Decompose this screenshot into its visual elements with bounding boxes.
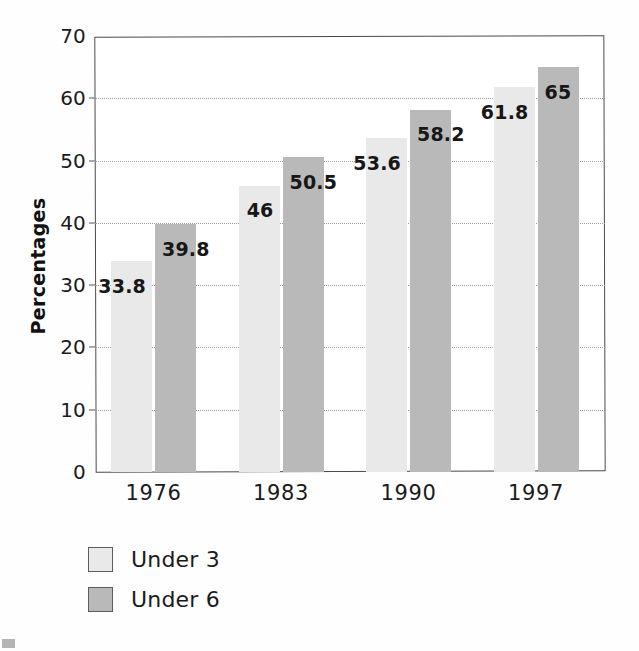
- bar-under-3-1983: [239, 186, 280, 473]
- bar-value-label: 33.8: [98, 275, 146, 297]
- x-tick-label-1976: 1976: [126, 481, 182, 505]
- bar-under-3-1990: [366, 138, 407, 472]
- bar-value-label: 53.6: [353, 152, 401, 174]
- x-tick-label-1990: 1990: [381, 481, 437, 505]
- chart-legend: Under 3Under 6: [88, 539, 220, 619]
- bar-chart-figure: 010203040506070 Percentages 33.839.84650…: [0, 0, 639, 651]
- bar-value-label: 39.8: [162, 238, 210, 260]
- bar-value-label: 58.2: [417, 123, 465, 145]
- y-tick-label: 0: [73, 460, 86, 484]
- plot-area: 33.839.84650.553.658.261.865: [95, 36, 605, 472]
- scan-artifact-mark: [2, 639, 15, 648]
- bar-under-6-1983: [283, 157, 324, 472]
- y-tick-label: 30: [60, 273, 86, 297]
- y-tick-label: 20: [60, 335, 86, 359]
- bar-value-label: 50.5: [290, 171, 338, 193]
- y-tick-label: 70: [60, 24, 86, 48]
- bar-value-label: 61.8: [481, 101, 529, 123]
- bar-under-6-1976: [155, 224, 196, 472]
- legend-label: Under 3: [131, 547, 220, 572]
- bar-under-6-1997: [538, 67, 579, 472]
- bar-value-label: 46: [247, 199, 274, 221]
- bar-under-6-1990: [410, 110, 451, 473]
- y-tick-label: 60: [60, 86, 86, 110]
- bar-under-3-1997: [494, 87, 535, 472]
- legend-swatch-icon: [88, 547, 113, 572]
- x-tick-label-1997: 1997: [508, 481, 564, 505]
- y-tick-label: 10: [60, 398, 86, 422]
- legend-item-under-3: Under 3: [88, 539, 220, 579]
- legend-item-under-6: Under 6: [88, 579, 220, 619]
- y-tick-label: 40: [60, 211, 86, 235]
- x-tick-label-1983: 1983: [253, 481, 309, 505]
- bar-value-label: 65: [545, 81, 572, 103]
- legend-label: Under 6: [131, 587, 220, 612]
- y-axis-title: Percentages: [27, 186, 49, 346]
- y-tick-label: 50: [60, 149, 86, 173]
- legend-swatch-icon: [88, 587, 113, 612]
